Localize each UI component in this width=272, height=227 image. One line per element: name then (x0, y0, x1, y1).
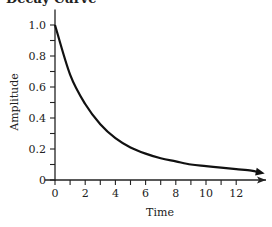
x-tick-label: 10 (199, 187, 213, 200)
decay-chart: 00.20.40.60.81.0024681012 Time Amplitude (0, 0, 272, 227)
x-tick-label: 6 (142, 187, 149, 200)
y-tick-label: 0.2 (29, 143, 47, 156)
y-tick-label: 0 (39, 174, 46, 187)
y-tick-label: 0.4 (29, 112, 47, 125)
x-tick-label: 0 (52, 187, 59, 200)
y-axis-label: Amplitude (8, 73, 21, 132)
x-tick-label: 4 (112, 187, 119, 200)
y-tick-label: 1.0 (29, 19, 47, 32)
x-axis-label: Time (146, 206, 174, 219)
curve-arrow-icon (255, 168, 265, 176)
y-tick-label: 0.8 (29, 50, 47, 63)
x-tick-label: 8 (172, 187, 179, 200)
y-tick-label: 0.6 (29, 81, 47, 94)
x-tick-label: 2 (82, 187, 89, 200)
amplitude-curve (55, 25, 259, 172)
x-tick-label: 12 (229, 187, 243, 200)
